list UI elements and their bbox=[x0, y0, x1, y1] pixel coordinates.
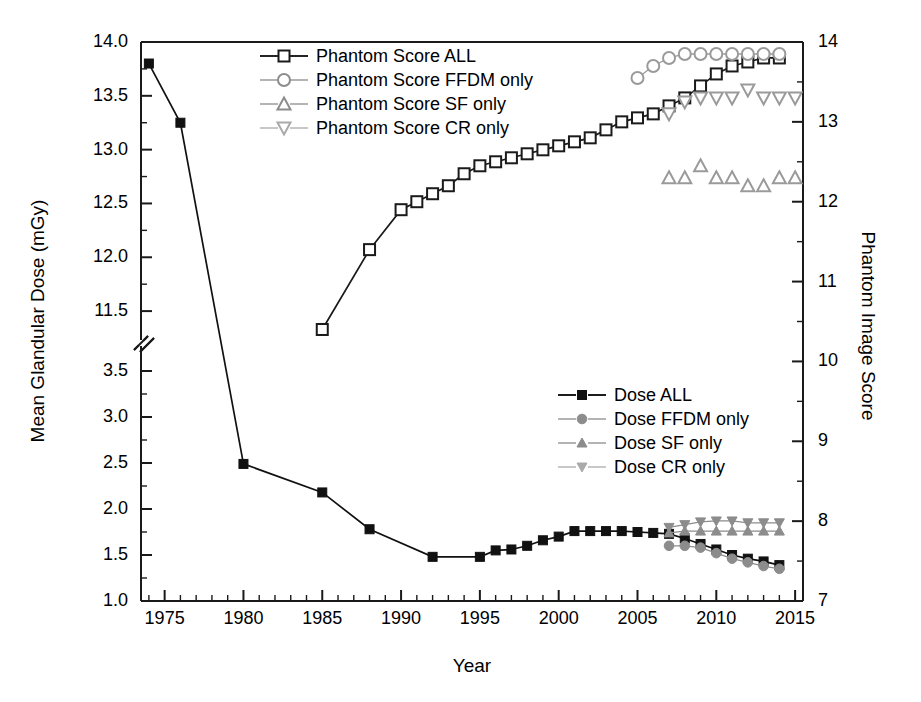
open-triangle-up-icon bbox=[258, 92, 310, 116]
x-tick-2010: 2010 bbox=[682, 608, 750, 629]
legend-marker bbox=[556, 383, 608, 407]
legend-item: Phantom Score FFDM only bbox=[258, 68, 533, 92]
filled-triangle-up-icon bbox=[556, 431, 608, 455]
legend-marker bbox=[556, 455, 608, 479]
y-left-tick-14.0: 14.0 bbox=[62, 31, 128, 52]
legend-label: Phantom Score ALL bbox=[316, 47, 476, 65]
legend-label: Dose ALL bbox=[614, 386, 692, 404]
y-left-tick-2.0: 2.0 bbox=[62, 498, 128, 519]
legend-label: Phantom Score FFDM only bbox=[316, 71, 533, 89]
x-tick-2015: 2015 bbox=[761, 608, 829, 629]
chart-figure: 1.01.52.02.53.03.511.512.012.513.013.514… bbox=[0, 0, 921, 702]
legend-item: Dose CR only bbox=[556, 455, 749, 479]
x-tick-1985: 1985 bbox=[288, 608, 356, 629]
x-tick-2000: 2000 bbox=[525, 608, 593, 629]
legend-label: Dose CR only bbox=[614, 458, 725, 476]
legend-dose: Dose ALLDose FFDM onlyDose SF onlyDose C… bbox=[556, 383, 749, 479]
series-phantom-score-ffdm-only bbox=[632, 48, 786, 84]
y-right-tick-9: 9 bbox=[818, 430, 858, 451]
y-right-tick-13: 13 bbox=[818, 111, 858, 132]
y-right-tick-12: 12 bbox=[818, 191, 858, 212]
series-phantom-score-cr-only bbox=[663, 84, 802, 120]
y-left-tick-12.5: 12.5 bbox=[62, 192, 128, 213]
legend-item: Dose SF only bbox=[556, 431, 749, 455]
y-axis-left-title: Mean Glandular Dose (mGy) bbox=[27, 171, 49, 471]
legend-label: Phantom Score CR only bbox=[316, 119, 509, 137]
series-dose-sf-only bbox=[664, 526, 784, 537]
y-right-tick-8: 8 bbox=[818, 510, 858, 531]
legend-marker bbox=[556, 431, 608, 455]
y-left-tick-11.5: 11.5 bbox=[62, 300, 128, 321]
filled-triangle-down-icon bbox=[556, 455, 608, 479]
y-left-tick-1.5: 1.5 bbox=[62, 544, 128, 565]
filled-square-icon bbox=[556, 383, 608, 407]
y-left-tick-1.0: 1.0 bbox=[62, 590, 128, 611]
x-tick-1995: 1995 bbox=[446, 608, 514, 629]
legend-item: Phantom Score CR only bbox=[258, 116, 533, 140]
y-left-tick-12.0: 12.0 bbox=[62, 246, 128, 267]
x-tick-1990: 1990 bbox=[367, 608, 435, 629]
x-axis-title: Year bbox=[141, 655, 803, 677]
y-right-tick-14: 14 bbox=[818, 31, 858, 52]
y-left-tick-3.0: 3.0 bbox=[62, 406, 128, 427]
legend-label: Dose FFDM only bbox=[614, 410, 749, 428]
open-circle-icon bbox=[258, 68, 310, 92]
legend-item: Dose FFDM only bbox=[556, 407, 749, 431]
legend-marker bbox=[258, 44, 310, 68]
x-tick-2005: 2005 bbox=[604, 608, 672, 629]
legend-marker bbox=[556, 407, 608, 431]
legend-phantom-score: Phantom Score ALLPhantom Score FFDM only… bbox=[258, 44, 533, 140]
filled-circle-icon bbox=[556, 407, 608, 431]
open-square-icon bbox=[258, 44, 310, 68]
y-left-tick-13.5: 13.5 bbox=[62, 85, 128, 106]
legend-item: Dose ALL bbox=[556, 383, 749, 407]
legend-item: Phantom Score SF only bbox=[258, 92, 533, 116]
legend-marker bbox=[258, 68, 310, 92]
open-triangle-down-icon bbox=[258, 116, 310, 140]
legend-label: Dose SF only bbox=[614, 434, 722, 452]
legend-item: Phantom Score ALL bbox=[258, 44, 533, 68]
x-tick-1975: 1975 bbox=[131, 608, 199, 629]
x-tick-1980: 1980 bbox=[209, 608, 277, 629]
y-left-tick-3.5: 3.5 bbox=[62, 360, 128, 381]
y-right-tick-11: 11 bbox=[818, 271, 858, 292]
legend-marker bbox=[258, 116, 310, 140]
y-right-tick-10: 10 bbox=[818, 350, 858, 371]
y-axis-right-title: Phantom Image Score bbox=[857, 176, 879, 476]
legend-label: Phantom Score SF only bbox=[316, 95, 506, 113]
y-left-tick-13.0: 13.0 bbox=[62, 139, 128, 160]
series-phantom-score-sf-only bbox=[663, 159, 802, 191]
legend-marker bbox=[258, 92, 310, 116]
y-left-tick-2.5: 2.5 bbox=[62, 452, 128, 473]
